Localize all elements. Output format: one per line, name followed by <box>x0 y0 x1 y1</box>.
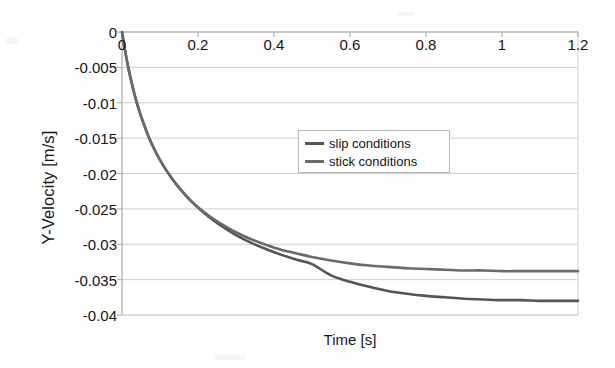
y-tick-label: -0.02 <box>51 165 117 182</box>
y-tickmarks <box>117 32 122 315</box>
x-tick-label: 0.4 <box>264 36 285 53</box>
legend-label-stick: stick conditions <box>329 155 417 168</box>
x-tick-label: 0.8 <box>416 36 437 53</box>
y-axis-title: Y-Velocity [m/s] <box>39 78 58 298</box>
x-tick-label: 0.2 <box>188 36 209 53</box>
x-axis-title: Time [s] <box>122 331 578 348</box>
legend-entry-slip: slip conditions <box>305 134 449 152</box>
legend: slip conditions stick conditions <box>298 130 450 173</box>
y-tick-label: -0.035 <box>51 271 117 288</box>
x-tick-label: 1 <box>498 36 506 53</box>
x-tick-label: 0.6 <box>340 36 361 53</box>
y-tick-label: -0.015 <box>51 130 117 147</box>
y-tick-label: -0.04 <box>51 307 117 324</box>
legend-label-slip: slip conditions <box>329 137 411 150</box>
gridlines <box>122 32 578 315</box>
legend-swatch-stick-icon <box>305 160 324 163</box>
y-tick-label: -0.03 <box>51 236 117 253</box>
x-axis-tick-labels: 00.20.40.60.811.2 <box>0 0 615 70</box>
legend-entry-stick: stick conditions <box>305 152 449 170</box>
x-tick-label: 0 <box>118 36 126 53</box>
y-tick-label: -0.01 <box>51 94 117 111</box>
chart-figure: 0-0.005-0.01-0.015-0.02-0.025-0.03-0.035… <box>0 0 615 368</box>
legend-swatch-slip-icon <box>305 142 324 145</box>
x-tick-label: 1.2 <box>568 36 589 53</box>
y-tick-label: -0.025 <box>51 200 117 217</box>
